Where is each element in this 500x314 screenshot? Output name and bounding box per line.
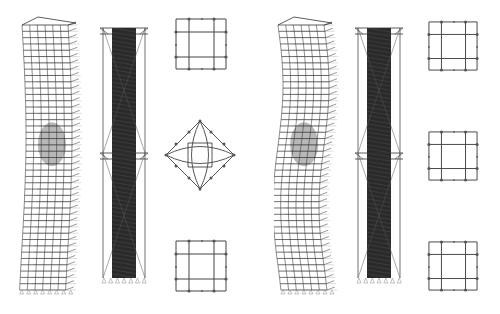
left-plan-lower bbox=[174, 239, 228, 293]
left-core-model bbox=[100, 22, 148, 290]
right-plan-middle bbox=[427, 130, 479, 182]
left-plan-middle-diamond bbox=[163, 118, 237, 192]
left-plan-upper bbox=[174, 17, 228, 71]
left-tower-model bbox=[18, 15, 88, 295]
right-plan-lower bbox=[427, 240, 479, 292]
right-core-model bbox=[355, 22, 403, 290]
right-tower-model bbox=[274, 15, 344, 295]
right-plan-upper bbox=[427, 20, 479, 72]
